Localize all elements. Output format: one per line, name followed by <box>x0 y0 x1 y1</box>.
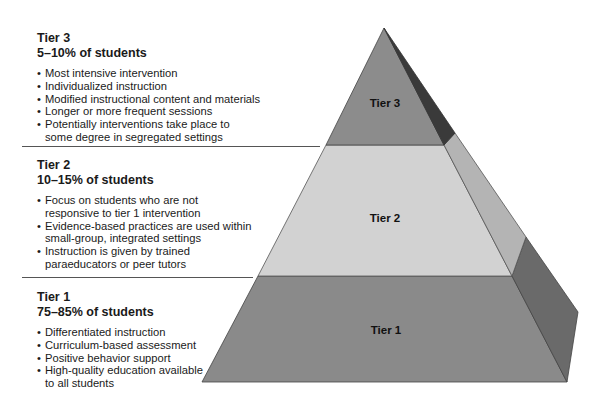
pyramid-diagram: Tier 3 Tier 2 Tier 1 <box>0 0 599 400</box>
tier3-pyramid-label: Tier 3 <box>370 97 400 109</box>
tier1-pyramid-label: Tier 1 <box>371 324 402 336</box>
tier2-pyramid-label: Tier 2 <box>370 212 400 224</box>
tier3-front-face <box>326 28 444 145</box>
